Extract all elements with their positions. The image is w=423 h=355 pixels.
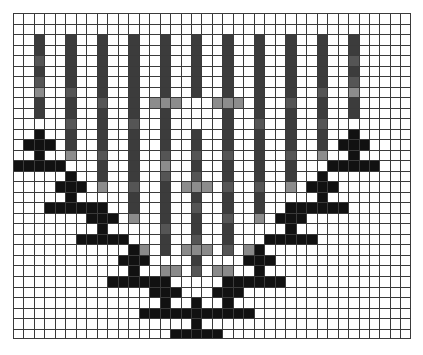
errorbar-cell (285, 108, 295, 119)
errorbar-cap-cell (86, 234, 96, 245)
errorbar-cell (254, 129, 264, 140)
h-errorbar-cell (243, 244, 253, 255)
errorbar-cell (254, 45, 264, 56)
errorbar-cap-cell (369, 160, 379, 171)
marker-plus-cell (55, 181, 65, 192)
errorbar-cap-cell (275, 276, 285, 287)
errorbar-cap-cell (76, 202, 86, 213)
marker-plus-cell (212, 287, 222, 298)
errorbar-cell (222, 160, 232, 171)
errorbar-cell (254, 192, 264, 203)
errorbar-cell (317, 87, 327, 98)
errorbar-cell (348, 45, 358, 56)
marker-plus-cell (128, 255, 138, 266)
marker-plus-cell (76, 181, 86, 192)
figure-canvas (0, 0, 423, 355)
errorbar-cap-cell (34, 160, 44, 171)
errorbar-cell (170, 97, 180, 108)
errorbar-cell (222, 76, 232, 87)
errorbar-cell (65, 76, 75, 87)
marker-plus-cell (327, 181, 337, 192)
errorbar-cell (191, 139, 201, 150)
marker-plus-cell (285, 202, 295, 213)
errorbar-cell (254, 160, 264, 171)
errorbar-cell (254, 213, 264, 224)
errorbar-cell (160, 160, 170, 171)
errorbar-cap-cell (44, 160, 54, 171)
errorbar-cell (97, 45, 107, 56)
errorbar-cell (191, 192, 201, 203)
errorbar-cell (128, 118, 138, 129)
errorbar-cell (65, 118, 75, 129)
errorbar-cell (191, 213, 201, 224)
marker-plus-cell (317, 192, 327, 203)
marker-plus-cell (275, 213, 285, 224)
errorbar-cell (254, 150, 264, 161)
errorbar-cap-cell (201, 329, 211, 340)
errorbar-cell (160, 223, 170, 234)
errorbar-cell (160, 66, 170, 77)
errorbar-cell (97, 34, 107, 45)
errorbar-cell (254, 76, 264, 87)
errorbar-cap-cell (118, 276, 128, 287)
errorbar-cell (191, 45, 201, 56)
errorbar-cap-cell (296, 234, 306, 245)
errorbar-cell (160, 87, 170, 98)
errorbar-cell (34, 87, 44, 98)
errorbar-cell (317, 34, 327, 45)
errorbar-cell (128, 45, 138, 56)
errorbar-cell (65, 87, 75, 98)
errorbar-cell (97, 118, 107, 129)
errorbar-cell (128, 129, 138, 140)
errorbar-cap-cell (359, 160, 369, 171)
marker-plus-cell (160, 287, 170, 298)
errorbar-cell (128, 192, 138, 203)
errorbar-cell (181, 181, 191, 192)
errorbar-cell (65, 97, 75, 108)
marker-plus-cell (264, 255, 274, 266)
errorbar-cell (65, 139, 75, 150)
errorbar-cap-cell (149, 276, 159, 287)
errorbar-cell (285, 97, 295, 108)
errorbar-cell (222, 108, 232, 119)
errorbar-cell (34, 66, 44, 77)
errorbar-cell (149, 97, 159, 108)
errorbar-cell (348, 55, 358, 66)
marker-plus-cell (317, 181, 327, 192)
errorbar-cell (160, 192, 170, 203)
errorbar-cell (128, 160, 138, 171)
errorbar-cell (348, 34, 358, 45)
errorbar-cap-cell (317, 202, 327, 213)
errorbar-cell (97, 87, 107, 98)
errorbar-cap-cell (306, 202, 316, 213)
errorbar-cap-cell (264, 234, 274, 245)
h-errorbar-cell (160, 265, 170, 276)
errorbar-cell (222, 66, 232, 77)
errorbar-cap-cell (348, 160, 358, 171)
errorbar-cell (317, 55, 327, 66)
errorbar-cell (160, 150, 170, 161)
errorbar-cell (254, 202, 264, 213)
h-errorbar-cell (139, 244, 149, 255)
errorbar-cap-cell (243, 308, 253, 319)
marker-plus-cell (222, 276, 232, 287)
marker-plus-cell (97, 202, 107, 213)
marker-plus-cell (139, 255, 149, 266)
marker-plus-cell (65, 171, 75, 182)
errorbar-cell (65, 129, 75, 140)
errorbar-cap-cell (338, 202, 348, 213)
errorbar-cell (160, 76, 170, 87)
marker-plus-cell (317, 171, 327, 182)
errorbar-cap-cell (191, 329, 201, 340)
errorbar-cell (191, 160, 201, 171)
errorbar-cell (212, 97, 222, 108)
errorbar-cell (160, 234, 170, 245)
errorbar-cell (97, 97, 107, 108)
marker-plus-cell (233, 287, 243, 298)
errorbar-cell (97, 139, 107, 150)
marker-plus-cell (191, 297, 201, 308)
errorbar-cell (285, 160, 295, 171)
errorbar-cap-cell (139, 276, 149, 287)
marker-plus-cell (254, 265, 264, 276)
errorbar-cell (97, 55, 107, 66)
